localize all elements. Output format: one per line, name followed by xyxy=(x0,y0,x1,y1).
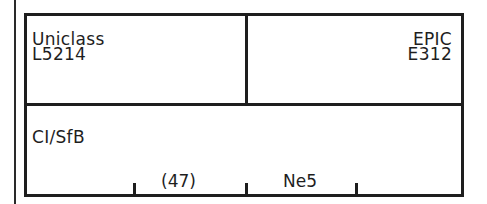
uniclass-cell: Uniclass L5214 xyxy=(32,32,105,62)
classification-box: Uniclass L5214 EPIC E312 CI/SfB (47) Ne5 xyxy=(24,13,464,197)
epic-cell: EPIC E312 xyxy=(408,32,452,62)
row-divider xyxy=(27,103,461,106)
field-tick-3 xyxy=(355,183,358,194)
field-tick-2 xyxy=(245,183,248,194)
cisfb-label: CI/SfB xyxy=(32,130,85,145)
field-tick-1 xyxy=(133,183,136,194)
column-divider xyxy=(245,16,248,103)
cisfb-field-3: Ne5 xyxy=(283,173,317,190)
cisfb-field-2: (47) xyxy=(161,173,196,190)
uniclass-code: L5214 xyxy=(32,47,105,62)
epic-code: E312 xyxy=(408,47,452,62)
margin-line xyxy=(14,0,16,204)
